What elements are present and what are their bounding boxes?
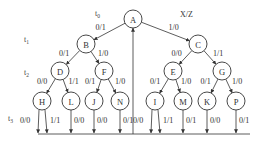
node-label: G xyxy=(219,67,225,77)
output-label: 0/0 xyxy=(20,116,30,125)
node-label: B xyxy=(83,40,89,50)
edge-label: 1/0 xyxy=(169,23,179,32)
node-label: D xyxy=(57,67,63,77)
output-label: 1/1 xyxy=(50,116,60,125)
state-node-A: A xyxy=(124,10,142,28)
node-label: P xyxy=(234,97,239,107)
edge-A-C xyxy=(141,22,189,41)
edge-label: 0/0 xyxy=(37,77,47,86)
state-node-C: C xyxy=(189,35,207,53)
output-label: 0/1 xyxy=(186,116,196,125)
output-arrow-H xyxy=(38,110,39,133)
time-label-t2: t2 xyxy=(24,68,29,78)
node-label: F xyxy=(102,67,107,77)
state-node-P: P xyxy=(227,92,245,110)
edge-E-I xyxy=(160,79,169,94)
node-label: A xyxy=(130,15,137,25)
edge-D-H xyxy=(47,79,56,94)
edge-label: 1/1 xyxy=(213,49,223,58)
edge-label: 1/0 xyxy=(115,77,125,86)
edge-label: 0/1 xyxy=(96,23,106,32)
state-node-F: F xyxy=(95,62,113,80)
state-node-K: K xyxy=(198,92,216,110)
edge-E-M xyxy=(176,80,180,93)
edge-label: 0/1 xyxy=(85,77,95,86)
edge-G-K xyxy=(211,79,218,93)
state-node-J: J xyxy=(85,92,103,110)
edge-label: 1/1 xyxy=(69,77,79,86)
node-label: L xyxy=(68,97,73,107)
output-arrow-I xyxy=(158,110,160,133)
state-node-L: L xyxy=(62,92,80,110)
state-node-H: H xyxy=(33,92,51,110)
output-label: 0/0 xyxy=(97,116,107,125)
edge-label: 0/1 xyxy=(59,49,69,58)
node-label: C xyxy=(195,40,201,50)
edge-label: 1/0 xyxy=(232,77,242,86)
node-label: I xyxy=(154,97,157,107)
node-label: E xyxy=(170,67,175,77)
state-node-I: I xyxy=(146,92,164,110)
edge-label: 0/1 xyxy=(150,77,160,86)
node-label: N xyxy=(117,97,123,107)
state-node-M: M xyxy=(174,92,192,110)
state-node-B: B xyxy=(77,35,95,53)
node-label: K xyxy=(204,97,211,107)
state-tree-diagram: ABCDFEGHLJNIMKP X/Z 0/11/00/11/00/01/10/… xyxy=(0,0,265,143)
edge-D-L xyxy=(63,79,68,92)
edge-label: 1/0 xyxy=(98,49,108,58)
state-node-N: N xyxy=(111,92,129,110)
edge-label: 0/0 xyxy=(172,49,182,58)
state-node-G: G xyxy=(213,62,231,80)
output-label: 0/0 xyxy=(133,116,143,125)
output-arrow-H xyxy=(45,110,47,133)
output-arrow-I xyxy=(151,110,152,133)
output-label: 0/0 xyxy=(210,116,220,125)
node-label: H xyxy=(39,97,45,107)
edge-label: 0/1 xyxy=(201,77,211,86)
state-node-D: D xyxy=(51,62,69,80)
state-node-E: E xyxy=(164,62,182,80)
output-label: 0/0 xyxy=(74,116,84,125)
edge-label: 1/0 xyxy=(181,77,191,86)
time-label-t0: t0 xyxy=(95,9,100,19)
output-label: 1/1 xyxy=(163,116,173,125)
node-label: M xyxy=(179,97,187,107)
time-label-t3: t3 xyxy=(8,114,13,124)
output-label: 0/1 xyxy=(123,116,133,125)
header-label: X/Z xyxy=(180,10,193,19)
edge-F-J xyxy=(97,80,101,93)
output-label: 0/1 xyxy=(239,116,249,125)
time-label-t1: t1 xyxy=(24,35,29,45)
